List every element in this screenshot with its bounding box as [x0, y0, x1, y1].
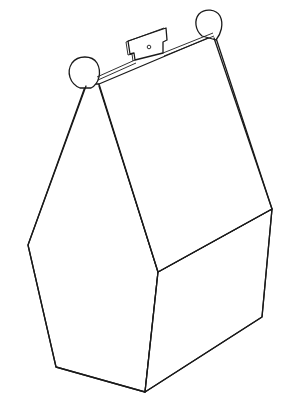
- left-ear-flap: [69, 57, 99, 88]
- box-diagram-svg: [0, 0, 285, 411]
- right-ear-flap: [196, 10, 222, 40]
- box-diagram: [0, 0, 285, 411]
- handle-tab: [126, 28, 167, 61]
